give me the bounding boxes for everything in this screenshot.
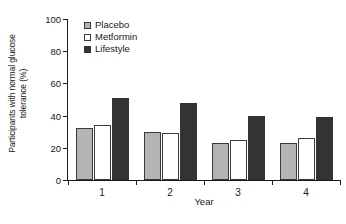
legend-swatch-metformin-icon [84, 34, 91, 41]
legend-label-placebo: Placebo [95, 20, 129, 30]
bar-placebo-year-2 [144, 132, 161, 180]
bar-placebo-year-1 [76, 128, 93, 180]
y-tick-label: 0 [56, 175, 61, 186]
y-axis-title-line-1: Participants with normal glucose [7, 34, 17, 153]
y-tick-mark [63, 51, 68, 52]
y-axis-title: Participants with normal glucose toleran… [0, 0, 34, 186]
bar-placebo-year-3 [212, 143, 229, 180]
legend-item-placebo: Placebo [84, 20, 137, 30]
y-tick-label: 80 [50, 46, 61, 57]
y-axis-line [67, 19, 68, 181]
chart-legend: Placebo Metformin Lifestyle [84, 20, 137, 54]
x-tick-mark [204, 180, 205, 185]
y-tick-mark [63, 19, 68, 20]
bar-lifestyle-year-3 [248, 116, 265, 180]
y-tick-mark [63, 116, 68, 117]
x-tick-mark [136, 180, 137, 185]
y-axis-title-line-2: tolerance (%) [17, 34, 28, 153]
bar-metformin-year-2 [162, 133, 179, 180]
bar-placebo-year-4 [280, 143, 297, 180]
y-tick-label: 40 [50, 110, 61, 121]
x-tick-mark [340, 180, 341, 185]
legend-item-metformin: Metformin [84, 32, 137, 42]
y-tick-label: 60 [50, 78, 61, 89]
y-tick-mark [63, 148, 68, 149]
legend-label-metformin: Metformin [95, 32, 137, 42]
bar-metformin-year-1 [94, 125, 111, 180]
bar-lifestyle-year-4 [316, 117, 333, 180]
y-tick-label: 20 [50, 142, 61, 153]
x-tick-mark [68, 180, 69, 185]
legend-swatch-placebo-icon [84, 22, 91, 29]
legend-swatch-lifestyle-icon [84, 46, 91, 53]
y-tick-label: 100 [45, 14, 61, 25]
bar-chart-figure: Participants with normal glucose toleran… [0, 0, 346, 224]
bar-metformin-year-3 [230, 140, 247, 180]
legend-item-lifestyle: Lifestyle [84, 44, 137, 54]
bar-metformin-year-4 [298, 138, 315, 180]
bar-lifestyle-year-2 [180, 103, 197, 180]
bar-lifestyle-year-1 [112, 98, 129, 180]
x-tick-mark [272, 180, 273, 185]
y-tick-mark [63, 83, 68, 84]
x-axis-title: Year [68, 196, 340, 207]
legend-label-lifestyle: Lifestyle [95, 44, 130, 54]
plot-area: 020406080100 1234 Placebo Metformin Life… [68, 19, 340, 180]
